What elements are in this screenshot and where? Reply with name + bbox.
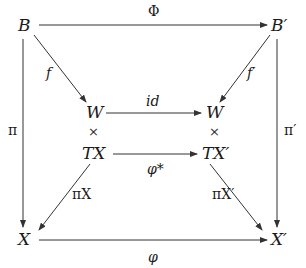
label-pi-prime: π′ (284, 122, 296, 138)
commutative-diagram: B B′ W W × × TX TX′ X X′ Φ f f′ id φ* π … (0, 0, 306, 268)
label-pi: π (8, 122, 17, 138)
node-X: X (16, 229, 31, 249)
node-B-prime: B′ (270, 15, 287, 35)
label-f: f (45, 65, 54, 81)
node-TX: TX (82, 143, 106, 163)
label-f-prime: f′ (246, 65, 256, 81)
label-pi-X: πX (72, 186, 91, 202)
label-phi: φ (148, 249, 158, 265)
node-W-right: W (206, 102, 225, 122)
arrow-f-prime (220, 35, 270, 102)
times-right: × (209, 124, 220, 139)
node-B: B (17, 15, 31, 35)
node-W-left: W (86, 102, 105, 122)
node-TX-prime: TX′ (202, 143, 229, 163)
times-left: × (88, 124, 99, 139)
arrow-f (34, 35, 86, 102)
label-pi-X-prime: πX′ (212, 186, 234, 202)
node-X-prime: X′ (269, 229, 287, 249)
label-phi-star: φ* (147, 161, 164, 177)
label-Phi: Φ (148, 3, 159, 19)
label-id: id (146, 93, 159, 109)
